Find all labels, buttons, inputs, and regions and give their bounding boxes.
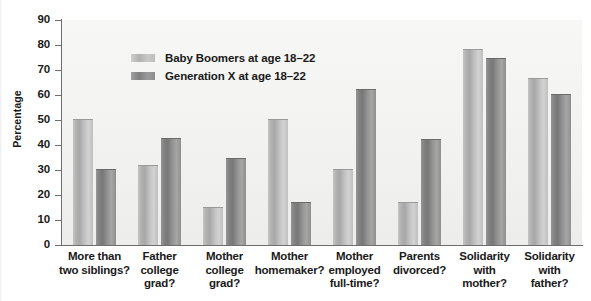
bar-series-1-category-5	[421, 139, 441, 245]
bar-series-1-category-4	[356, 89, 376, 245]
y-axis-tick-label-60: 60	[24, 89, 50, 101]
y-axis-tick-10	[55, 220, 61, 221]
x-axis-line	[61, 245, 583, 246]
y-axis-tick-value: 20	[24, 189, 50, 201]
bar-series-0-category-0	[73, 119, 93, 245]
bar-series-layer	[62, 20, 582, 245]
y-axis-tick-label-50: 50	[24, 114, 50, 126]
y-axis-tick-label-30: 30	[24, 164, 50, 176]
y-axis-tick-label-20: 20	[24, 189, 50, 201]
y-axis-tick-label-10: 10	[24, 214, 50, 226]
bar-chart: Percentage 9080706050403020100 Baby Boom…	[0, 0, 591, 301]
bar-series-1-category-0	[96, 169, 116, 245]
bar-series-1-category-1	[161, 138, 181, 245]
bar-series-0-category-4	[333, 169, 353, 245]
y-axis-tick-value: 10	[24, 214, 50, 226]
y-axis-tick-value: 50	[24, 114, 50, 126]
bar-series-0-category-6	[463, 49, 483, 245]
y-axis-tick-40	[55, 145, 61, 146]
y-axis-tick-60	[55, 95, 61, 96]
bar-series-1-category-7	[551, 94, 571, 245]
y-axis-tick-value: 30	[24, 164, 50, 176]
y-axis-tick-20	[55, 195, 61, 196]
y-axis-tick-0	[55, 245, 61, 246]
y-axis-tick-90	[55, 20, 61, 21]
y-axis-tick-label-90: 90	[24, 14, 50, 26]
y-axis-title: Percentage	[11, 69, 23, 169]
bar-series-1-category-2	[226, 158, 246, 245]
y-axis-tick-label-80: 80	[24, 39, 50, 51]
y-axis-tick-80	[55, 45, 61, 46]
y-axis-tick-70	[55, 70, 61, 71]
x-axis-label-line: full-time?	[316, 277, 393, 291]
y-axis-tick-label-0: 0	[24, 239, 50, 251]
bar-series-0-category-3	[268, 119, 288, 245]
y-axis-tick-value: 90	[24, 14, 50, 26]
y-axis-tick-value: 40	[24, 139, 50, 151]
x-axis-label-line: grad?	[186, 277, 263, 291]
x-axis-label-line: with	[511, 264, 588, 278]
bar-series-0-category-1	[138, 165, 158, 245]
y-axis-tick-value: 70	[24, 64, 50, 76]
y-axis-tick-30	[55, 170, 61, 171]
y-axis-tick-value: 60	[24, 89, 50, 101]
bar-series-1-category-6	[486, 58, 506, 245]
x-axis-label-line: father?	[511, 277, 588, 291]
x-axis-category-labels: More thantwo siblings?Fathercollegegrad?…	[62, 250, 582, 300]
y-axis-tick-value: 80	[24, 39, 50, 51]
bar-series-0-category-5	[398, 202, 418, 246]
y-axis-tick-value: 0	[24, 239, 50, 251]
y-axis-tick-label-70: 70	[24, 64, 50, 76]
page-edge-shadow	[0, 0, 3, 301]
bar-series-0-category-2	[203, 207, 223, 246]
y-axis-tick-label-40: 40	[24, 139, 50, 151]
x-axis-label-7: Solidaritywithfather?	[511, 250, 588, 291]
bar-series-1-category-3	[291, 202, 311, 246]
x-axis-label-line: Solidarity	[511, 250, 588, 264]
bar-series-0-category-7	[528, 78, 548, 245]
y-axis-tick-50	[55, 120, 61, 121]
